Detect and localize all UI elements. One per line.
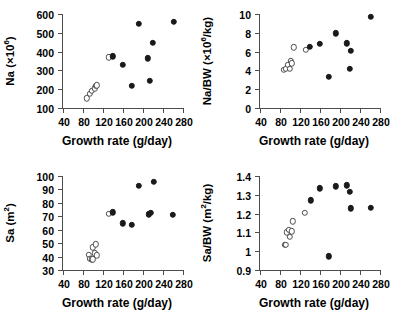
y-axis-tick-label: 4 [245, 66, 251, 77]
x-axis-tick-label: 200 [135, 279, 153, 290]
y-axis-tick-label: 50 [42, 239, 54, 250]
y-axis-tick-label: 400 [36, 47, 54, 58]
y-axis-tick-label: 300 [36, 66, 54, 77]
x-axis-tick: 240 [163, 108, 164, 113]
y-axis-tick-label: 600 [36, 10, 54, 21]
y-axis-label-na: Na (×106) [2, 14, 18, 108]
y-axis-tick: 1.3 [255, 195, 260, 196]
y-axis-tick: 1.1 [255, 232, 260, 233]
y-axis-label-na-bw-tail: /kg) [201, 17, 213, 37]
x-axis-tick-label: 280 [372, 279, 390, 290]
x-axis-tick: 240 [360, 270, 361, 275]
x-axis-tick: 40 [260, 270, 261, 275]
y-axis-tick: 4 [255, 70, 260, 71]
x-axis-tick: 280 [380, 108, 381, 113]
x-axis-tick: 120 [300, 108, 301, 113]
x-axis-tick-label: 40 [255, 279, 267, 290]
x-axis-tick: 240 [360, 108, 361, 113]
data-point-filled [326, 253, 332, 259]
x-axis-tick: 80 [83, 108, 84, 113]
data-point-filled [346, 66, 352, 72]
x-axis-tick: 80 [280, 108, 281, 113]
y-axis-tick: 100 [58, 176, 63, 177]
y-axis-label-sa-bw: Sa/BW (m2/kg) [199, 176, 215, 270]
y-axis-tick-label: 40 [42, 252, 54, 263]
x-axis-label-na-bw: Growth rate (g/day) [239, 134, 389, 148]
x-axis-tick: 120 [103, 270, 104, 275]
x-axis-tick: 80 [83, 270, 84, 275]
x-axis-tick-label: 80 [78, 279, 90, 290]
y-axis-tick: 1 [255, 251, 260, 252]
y-axis-tick-label: 60 [42, 225, 54, 236]
data-point-filled [150, 179, 156, 185]
y-axis-label-na-main: Na (×10 [4, 44, 16, 85]
data-point-open [286, 65, 292, 71]
y-axis-tick: 300 [58, 70, 63, 71]
y-axis-tick: 10 [255, 14, 260, 15]
data-point-filled [109, 209, 115, 215]
plot-area-na: 1002003004005006004080120160200240280 [62, 14, 183, 109]
y-axis-tick-label: 6 [245, 47, 251, 58]
y-axis-tick-label: 10 [239, 10, 251, 21]
x-axis-tick: 80 [280, 270, 281, 275]
x-axis-tick: 160 [123, 270, 124, 275]
y-axis-tick-label: 1.1 [236, 228, 251, 239]
data-point-open [289, 60, 295, 66]
y-axis-tick: 60 [58, 230, 63, 231]
panel-na-bw: Na/BW (×106/kg) 024681040801201602002402… [197, 0, 394, 162]
data-point-filled [343, 182, 349, 188]
data-point-filled [148, 210, 154, 216]
data-point-open [301, 209, 307, 215]
y-axis-label-na-superscript: 6 [2, 40, 11, 44]
x-axis-tick-label: 240 [155, 279, 173, 290]
data-point-filled [147, 77, 153, 83]
x-axis-tick-label: 160 [312, 279, 330, 290]
x-axis-tick: 40 [260, 108, 261, 113]
y-axis-tick-label: 0 [245, 104, 251, 115]
y-axis-label-sa-tail: ) [4, 203, 16, 207]
x-axis-tick-label: 200 [332, 279, 350, 290]
y-axis-label-sa-bw-superscript: 2 [199, 204, 208, 208]
y-axis-tick: 600 [58, 14, 63, 15]
x-axis-tick: 160 [320, 108, 321, 113]
x-axis-tick: 280 [183, 270, 184, 275]
x-axis-tick-label: 240 [352, 279, 370, 290]
x-axis-tick-label: 200 [332, 117, 350, 128]
y-axis-label-na-bw: Na/BW (×106/kg) [199, 14, 215, 108]
x-axis-tick-label: 160 [312, 117, 330, 128]
x-axis-tick-label: 160 [115, 279, 133, 290]
y-axis-tick: 1.2 [255, 214, 260, 215]
x-axis-tick: 280 [183, 108, 184, 113]
y-axis-tick: 80 [58, 203, 63, 204]
data-point-filled [348, 205, 354, 211]
y-axis-tick: 8 [255, 33, 260, 34]
y-axis-label-na-bw-main: Na/BW (×10 [201, 42, 213, 106]
y-axis-tick-label: 1 [245, 247, 251, 258]
data-point-filled [129, 82, 135, 88]
data-point-filled [136, 21, 142, 27]
data-point-open [283, 241, 289, 247]
x-axis-tick: 120 [103, 108, 104, 113]
data-point-filled [333, 183, 339, 189]
data-point-filled [368, 14, 374, 20]
data-point-filled [145, 55, 151, 61]
data-point-filled [326, 73, 332, 79]
data-point-open [94, 82, 100, 88]
y-axis-tick: 2 [255, 89, 260, 90]
y-axis-tick: 70 [58, 216, 63, 217]
y-axis-tick-label: 80 [42, 199, 54, 210]
plot-area-na-bw: 02468104080120160200240280 [259, 14, 380, 109]
y-axis-tick-label: 30 [42, 266, 54, 277]
y-axis-tick: 6 [255, 52, 260, 53]
y-axis-label-sa-bw-main: Sa/BW (m [201, 209, 213, 263]
data-point-filled [347, 189, 353, 195]
data-point-filled [110, 53, 116, 59]
data-point-filled [150, 40, 156, 46]
data-point-filled [170, 212, 176, 218]
y-axis-tick-label: 200 [36, 85, 54, 96]
data-point-filled [367, 205, 373, 211]
data-point-filled [135, 183, 141, 189]
y-axis-tick: 90 [58, 189, 63, 190]
x-axis-tick-label: 240 [155, 117, 173, 128]
x-axis-tick-label: 280 [175, 279, 193, 290]
